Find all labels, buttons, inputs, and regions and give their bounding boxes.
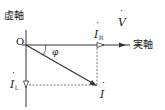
ir-symbol: I [94, 28, 98, 41]
il-label: IL [10, 79, 19, 91]
angle-arc [43, 45, 46, 55]
il-symbol: I [10, 78, 14, 91]
il-arrowhead-icon [24, 81, 29, 88]
origin-label: O [16, 37, 24, 47]
i-arrowhead-icon [90, 80, 98, 86]
ir-arrowhead-icon [97, 43, 104, 48]
i-symbol: I [100, 88, 104, 101]
ir-subscript: R [99, 34, 104, 41]
v-symbol: V [118, 16, 126, 29]
phi-label: φ [52, 48, 58, 57]
phasor-diagram [0, 0, 165, 110]
i-phasor-line [26, 45, 94, 84]
ir-label: IR [94, 29, 103, 41]
imaginary-axis-label: 虚軸 [4, 11, 24, 21]
il-subscript: L [15, 84, 19, 91]
v-label: V [118, 17, 126, 28]
i-label: I [100, 89, 104, 100]
v-arrowhead-icon [119, 43, 126, 48]
real-axis-label: 実軸 [133, 40, 153, 50]
